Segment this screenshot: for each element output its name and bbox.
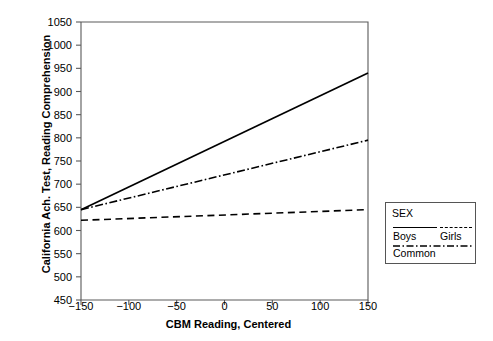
legend-key-girls (440, 227, 472, 228)
legend-title: SEX (392, 207, 413, 219)
x-tick-label: −50 (155, 300, 199, 312)
y-tick-label: 850 (32, 110, 72, 120)
x-tick-label: 0 (203, 300, 247, 312)
y-tick-label: 950 (32, 63, 72, 73)
legend-label-common: Common (393, 247, 436, 259)
data-series-layer (81, 73, 368, 220)
chart-figure: California Ach. Test, Reading Comprehens… (0, 0, 493, 341)
y-axis-tick-labels: 1050100095090085080075070065060055050045… (28, 0, 72, 341)
x-tick-label: 50 (250, 300, 294, 312)
y-tick-label: 650 (32, 202, 72, 212)
legend-label-boys: Boys (393, 230, 416, 242)
series-line-girls (81, 210, 368, 221)
y-tick-label: 1050 (32, 17, 72, 27)
legend-box: SEX Boys Girls Common (385, 202, 476, 264)
x-axis-title: CBM Reading, Centered (88, 318, 369, 330)
x-tick-label: −100 (107, 300, 151, 312)
x-tick-label: 100 (298, 300, 342, 312)
x-tick-label: 150 (346, 300, 390, 312)
legend-key-boys (393, 227, 437, 228)
y-tick-label: 800 (32, 133, 72, 143)
series-line-common (81, 140, 368, 210)
plot-area (0, 0, 493, 341)
y-tick-label: 600 (32, 226, 72, 236)
legend-label-girls: Girls (440, 230, 462, 242)
y-tick-label: 750 (32, 156, 72, 166)
series-line-boys (81, 73, 368, 210)
y-tick-label: 550 (32, 249, 72, 259)
y-tick-label: 700 (32, 179, 72, 189)
y-tick-label: 1000 (32, 40, 72, 50)
y-tick-label: 500 (32, 272, 72, 282)
y-tick-label: 900 (32, 87, 72, 97)
x-tick-label: −150 (59, 300, 103, 312)
y-axis-ticks (76, 22, 81, 300)
axis-frame (81, 22, 368, 300)
x-axis-tick-labels: −150−100−50050100150 (0, 300, 493, 316)
